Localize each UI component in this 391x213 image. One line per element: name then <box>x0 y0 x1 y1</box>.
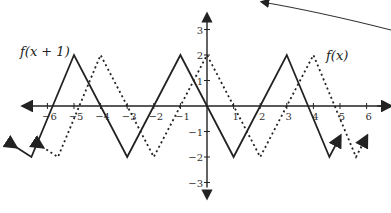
plot-area: −6−5−4−3−2−1123456−3−2−1123 <box>0 0 391 213</box>
y-tick-label: 2 <box>197 50 203 61</box>
x-tick-label: 1 <box>232 111 238 122</box>
label-f-x: f(x) <box>326 48 348 63</box>
y-tick-label: −2 <box>188 152 203 163</box>
x-tick-label: 3 <box>286 111 292 122</box>
y-tick-label: −3 <box>188 178 203 189</box>
x-tick-label: 6 <box>365 111 371 122</box>
x-tick-label: 2 <box>259 111 265 122</box>
x-tick-label: −3 <box>122 111 137 122</box>
y-tick-label: 3 <box>197 25 203 36</box>
graph-figure: −6−5−4−3−2−1123456−3−2−1123 f(x + 1) f(x… <box>0 0 391 213</box>
x-tick-label: −1 <box>175 111 190 122</box>
y-tick-label: 1 <box>197 76 203 87</box>
annotation-arrow <box>262 2 391 30</box>
label-f-x-plus-1: f(x + 1) <box>20 44 70 59</box>
y-tick-label: −1 <box>188 127 203 138</box>
